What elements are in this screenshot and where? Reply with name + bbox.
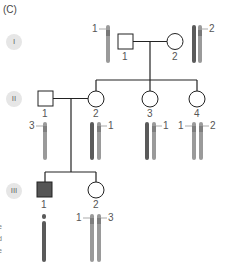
individual-ii3-number: 3	[147, 108, 153, 119]
chromosome-ii1	[36, 122, 47, 160]
individual-i1-number: 1	[122, 51, 128, 62]
individual-iii2-number: 2	[93, 199, 99, 210]
chromosome-iii2	[83, 214, 107, 262]
individual-ii1-symbol	[38, 91, 53, 106]
pedigree-lines	[0, 0, 230, 268]
clipped-edge-text: e	[0, 247, 2, 254]
individual-i2-number: 2	[172, 51, 178, 62]
individual-ii4-number: 4	[194, 108, 200, 119]
individual-i2-symbol	[167, 34, 183, 50]
individual-ii1-number: 1	[42, 108, 48, 119]
individual-iii1-number: 1	[41, 199, 47, 210]
allele-label-ii2: 1	[108, 120, 114, 131]
chromosome-i1	[99, 25, 110, 63]
chromosome-iii1	[42, 214, 46, 262]
allele-label-ii4-right: 2	[210, 120, 216, 131]
allele-label-iii2-left: 1	[76, 212, 82, 223]
clipped-edge-text: d	[0, 235, 2, 242]
chromosome-i2	[192, 25, 208, 63]
chromosome-ii4	[185, 122, 209, 160]
allele-label-i2: 2	[209, 23, 215, 34]
individual-ii4-symbol	[189, 91, 205, 107]
chromosome-ii2	[90, 122, 107, 160]
individual-iii2-symbol	[88, 182, 104, 198]
allele-label-ii1: 3	[29, 120, 35, 131]
individual-i1-symbol	[118, 34, 133, 49]
chromosome-ii3	[145, 122, 162, 160]
allele-label-ii4-left: 1	[178, 120, 184, 131]
individual-ii2-number: 2	[93, 108, 99, 119]
allele-label-i1: 1	[92, 23, 98, 34]
allele-label-ii3: 1	[163, 120, 169, 131]
individual-iii1-symbol	[37, 182, 52, 197]
individual-ii2-symbol	[88, 91, 104, 107]
clipped-edge-text: e	[0, 223, 2, 230]
allele-label-iii2-right: 3	[108, 212, 114, 223]
individual-ii3-symbol	[142, 91, 158, 107]
